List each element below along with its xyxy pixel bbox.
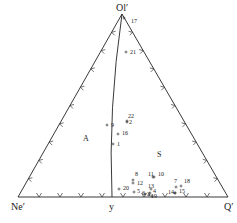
point-label: 19 bbox=[151, 193, 157, 199]
base-point-label-y: y bbox=[109, 201, 114, 212]
point-label: 7 bbox=[174, 178, 177, 184]
field-label-a: A bbox=[83, 134, 89, 143]
tick-mark-icon bbox=[58, 193, 63, 197]
tick-mark-icon bbox=[139, 50, 143, 54]
tick-marks bbox=[28, 31, 217, 197]
vertex-label-ol: Ol′ bbox=[116, 2, 128, 13]
point-label: 2 bbox=[129, 119, 132, 125]
plus-marker-icon bbox=[125, 51, 128, 54]
plus-marker-icon bbox=[175, 186, 178, 189]
tick-mark-icon bbox=[150, 68, 154, 72]
plus-marker-icon bbox=[117, 133, 120, 136]
point-label: 21 bbox=[130, 49, 136, 55]
plus-marker-icon bbox=[132, 179, 135, 182]
plus-marker-icon bbox=[118, 188, 121, 191]
tick-mark-icon bbox=[70, 105, 74, 109]
plus-marker-icon bbox=[106, 124, 109, 127]
point-label: 10 bbox=[158, 171, 164, 177]
point-label: 11 bbox=[148, 171, 154, 177]
tick-mark-icon bbox=[79, 193, 84, 197]
plus-marker-icon bbox=[132, 182, 135, 185]
tick-mark-icon bbox=[203, 159, 207, 163]
tick-mark-icon bbox=[160, 86, 164, 90]
point-label: 12 bbox=[137, 180, 143, 186]
tick-mark-icon bbox=[121, 193, 126, 197]
tick-mark-icon bbox=[101, 50, 105, 54]
field-label-s: S bbox=[157, 150, 161, 159]
tick-mark-icon bbox=[28, 178, 32, 182]
point-label: 17 bbox=[131, 18, 137, 24]
tick-mark-icon bbox=[91, 68, 95, 72]
tick-mark-icon bbox=[100, 193, 105, 197]
tick-mark-icon bbox=[112, 31, 116, 35]
tick-mark-icon bbox=[80, 86, 84, 90]
point-label: 6 bbox=[142, 190, 145, 196]
point-label: 1 bbox=[117, 141, 120, 147]
point-label: 9 bbox=[111, 122, 114, 128]
plus-marker-icon bbox=[133, 191, 136, 194]
vertex-label-ne: Ne′ bbox=[11, 201, 25, 212]
point-label: 3 bbox=[147, 191, 150, 197]
vertex-label-q: Q′ bbox=[224, 201, 233, 212]
tick-mark-icon bbox=[182, 123, 186, 127]
tick-mark-icon bbox=[60, 123, 64, 127]
point-label: 20 bbox=[123, 185, 129, 191]
tick-mark-icon bbox=[192, 141, 196, 145]
tick-mark-icon bbox=[205, 193, 210, 197]
tick-mark-icon bbox=[49, 141, 53, 145]
triangle-frame bbox=[18, 14, 228, 197]
point-label: 5 bbox=[137, 188, 140, 194]
point-label: 8 bbox=[135, 171, 138, 177]
field-boundary-curve bbox=[111, 14, 122, 197]
tick-mark-icon bbox=[129, 31, 133, 35]
tick-mark-icon bbox=[37, 193, 42, 197]
point-label: 15 bbox=[179, 188, 185, 194]
point-label: 14 bbox=[168, 189, 174, 195]
ternary-diagram: 17212229161812111013205643197181415 Ol′ … bbox=[0, 0, 237, 223]
plus-marker-icon bbox=[112, 143, 115, 146]
tick-mark-icon bbox=[213, 178, 217, 182]
tick-mark-icon bbox=[39, 159, 43, 163]
point-label: 16 bbox=[122, 130, 128, 136]
point-label: 18 bbox=[184, 178, 190, 184]
tick-mark-icon bbox=[171, 105, 175, 109]
tick-mark-icon bbox=[163, 193, 168, 197]
